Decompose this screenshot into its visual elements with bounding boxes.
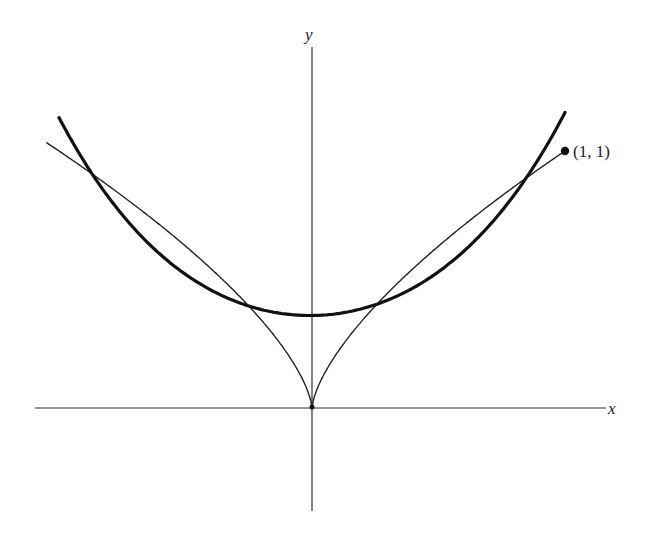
function-plot: (1, 1) x y — [0, 0, 656, 535]
x-axis-label: x — [607, 399, 616, 418]
point-marker — [561, 147, 569, 155]
origin-dot — [310, 405, 315, 410]
point-label: (1, 1) — [573, 142, 610, 161]
thin-curve — [46, 143, 565, 409]
y-axis-label: y — [303, 25, 313, 44]
